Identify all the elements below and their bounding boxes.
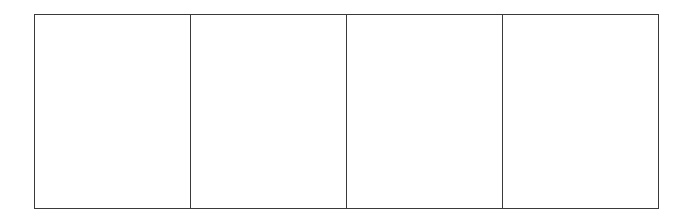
grid-cell-3 [347,15,503,208]
canvas [0,0,683,219]
four-panel-grid [34,14,659,209]
grid-cell-2 [191,15,347,208]
grid-cell-4 [503,15,658,208]
grid-cell-1 [35,15,191,208]
